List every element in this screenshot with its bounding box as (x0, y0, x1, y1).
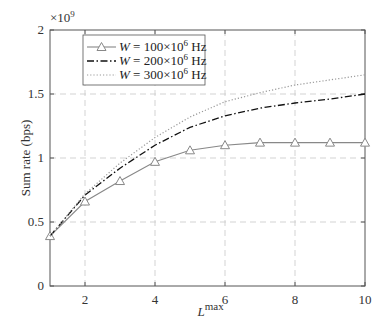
y-tick-label: 0.5 (28, 214, 44, 229)
y-tick-label: 0 (38, 278, 45, 293)
series-3 (50, 75, 365, 236)
line-chart: 24681000.511.52×109Sum rate (bps)LmaxW =… (0, 0, 390, 330)
series-2 (50, 94, 365, 236)
y-tick-label: 2 (38, 22, 45, 37)
x-tick-label: 2 (82, 292, 89, 307)
x-tick-label: 10 (359, 292, 372, 307)
y-multiplier: ×109 (50, 9, 75, 25)
legend: W = 100×106 HzW = 200×106 HzW = 300×106 … (83, 35, 207, 85)
legend-entry: W = 200×106 Hz (119, 52, 207, 68)
x-tick-label: 4 (152, 292, 159, 307)
legend-entry: W = 100×106 Hz (119, 38, 207, 54)
y-axis-label: Sum rate (bps) (18, 120, 33, 197)
y-tick-label: 1.5 (28, 86, 44, 101)
legend-entry: W = 300×106 Hz (119, 66, 207, 82)
y-tick-label: 1 (38, 150, 45, 165)
x-axis-label: Lmax (197, 300, 225, 319)
triangle-marker (116, 177, 125, 185)
x-tick-label: 8 (292, 292, 299, 307)
triangle-marker (81, 197, 90, 205)
